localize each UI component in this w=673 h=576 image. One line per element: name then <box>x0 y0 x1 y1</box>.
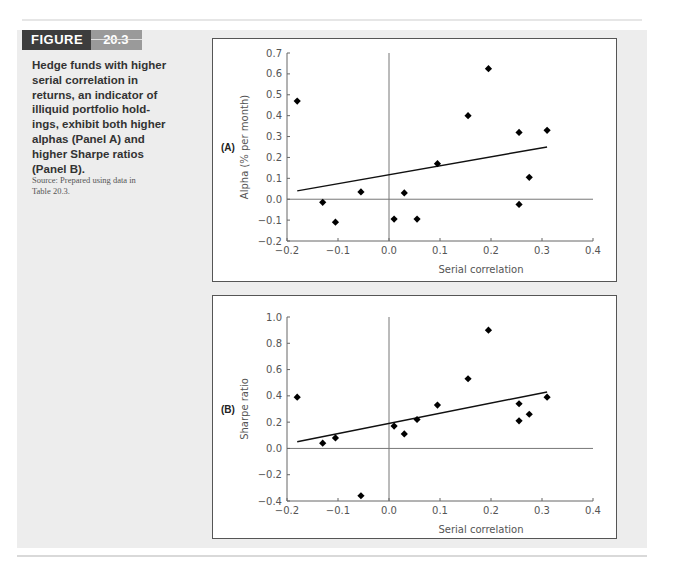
x-tick-label: −0.2 <box>275 245 299 256</box>
data-point-diamond <box>464 375 471 382</box>
x-tick-label: −0.2 <box>275 505 299 516</box>
x-axis-title: Serial correlation <box>438 524 523 535</box>
data-point-diamond <box>319 199 326 206</box>
source-line: Table 20.3. <box>32 186 167 197</box>
source-line: Source: Prepared using data in <box>32 175 167 186</box>
data-point-diamond <box>485 65 492 72</box>
data-point-diamond <box>391 215 398 222</box>
data-point-diamond <box>515 201 522 208</box>
x-tick-label: −0.1 <box>326 245 350 256</box>
data-point-diamond <box>332 219 339 226</box>
x-tick-label: 0.4 <box>585 505 601 516</box>
data-point-diamond <box>357 188 364 195</box>
regression-line <box>297 147 547 191</box>
x-tick-label: 0.0 <box>381 505 397 516</box>
x-tick-label: 0.0 <box>381 245 397 256</box>
caption-line: ings, exhibit both higher <box>32 117 167 132</box>
data-point-diamond <box>357 492 364 499</box>
y-tick-label: −0.4 <box>258 496 282 507</box>
x-tick-label: −0.1 <box>326 505 350 516</box>
panel-a-plot: −0.2−0.10.00.10.20.30.4−0.2−0.10.00.10.2… <box>213 39 618 283</box>
x-tick-label: 0.2 <box>483 505 499 516</box>
y-tick-label: 0.2 <box>266 152 282 163</box>
x-tick-label: 0.1 <box>432 505 448 516</box>
caption-line: higher Sharpe ratios <box>32 147 167 162</box>
panel-b-chart: −0.2−0.10.00.10.20.30.4−0.4−0.20.00.20.4… <box>212 295 617 539</box>
y-tick-label: 0.0 <box>266 194 282 205</box>
figure-number: 20.3 <box>91 30 142 50</box>
caption-line: illiquid portfolio hold- <box>32 102 167 117</box>
data-point-diamond <box>294 394 301 401</box>
data-point-diamond <box>515 129 522 136</box>
x-tick-label: 0.4 <box>585 245 601 256</box>
data-point-diamond <box>526 174 533 181</box>
figure-label: FIGURE <box>22 30 91 50</box>
y-tick-label: −0.2 <box>258 469 282 480</box>
regression-line <box>297 392 547 442</box>
caption-line: Hedge funds with higher <box>32 58 167 73</box>
caption-line: serial correlation in <box>32 73 167 88</box>
y-tick-label: 0.0 <box>266 443 282 454</box>
y-tick-label: 0.5 <box>266 89 282 100</box>
data-point-diamond <box>544 394 551 401</box>
panel-label: (A) <box>221 142 235 153</box>
caption-line: returns, an indicator of <box>32 88 167 103</box>
y-tick-label: 0.3 <box>266 131 282 142</box>
x-tick-label: 0.3 <box>534 505 550 516</box>
x-tick-label: 0.1 <box>432 245 448 256</box>
y-tick-label: −0.1 <box>258 215 282 226</box>
data-point-diamond <box>515 417 522 424</box>
data-point-diamond <box>515 400 522 407</box>
y-tick-label: 0.2 <box>266 417 282 428</box>
data-point-diamond <box>401 189 408 196</box>
x-axis-title: Serial correlation <box>438 264 523 275</box>
data-point-diamond <box>464 112 471 119</box>
x-tick-label: 0.3 <box>534 245 550 256</box>
y-tick-label: 0.7 <box>266 48 282 59</box>
top-rule <box>22 19 642 21</box>
data-point-diamond <box>401 430 408 437</box>
y-tick-label: 0.1 <box>266 173 282 184</box>
x-tick-label: 0.2 <box>483 245 499 256</box>
y-axis-title: Alpha (% per month) <box>239 95 250 199</box>
panel-label: (B) <box>221 404 235 415</box>
figure-source: Source: Prepared using data in Table 20.… <box>32 175 167 197</box>
y-tick-label: 0.4 <box>266 110 282 121</box>
y-tick-label: 1.0 <box>266 312 282 323</box>
data-point-diamond <box>434 401 441 408</box>
data-point-diamond <box>413 215 420 222</box>
data-point-diamond <box>526 411 533 418</box>
y-tick-label: 0.4 <box>266 390 282 401</box>
data-point-diamond <box>294 97 301 104</box>
caption-line: alphas (Panel A) and <box>32 132 167 147</box>
data-point-diamond <box>544 127 551 134</box>
y-tick-label: 0.6 <box>266 364 282 375</box>
y-tick-label: 0.8 <box>266 338 282 349</box>
figure-header: FIGURE 20.3 <box>22 30 142 50</box>
figure-caption: Hedge funds with higher serial correlati… <box>32 58 167 176</box>
y-tick-label: 0.6 <box>266 68 282 79</box>
panel-b-plot: −0.2−0.10.00.10.20.30.4−0.4−0.20.00.20.4… <box>213 296 618 540</box>
panel-a-chart: −0.2−0.10.00.10.20.30.4−0.2−0.10.00.10.2… <box>212 38 617 282</box>
data-point-diamond <box>319 440 326 447</box>
bottom-rule <box>17 555 647 557</box>
data-point-diamond <box>485 327 492 334</box>
y-tick-label: −0.2 <box>258 236 282 247</box>
y-axis-title: Sharpe ratio <box>239 378 250 440</box>
